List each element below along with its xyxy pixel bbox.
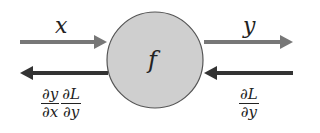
fraction-numerator: ∂L	[239, 86, 259, 104]
backward-output-arrow	[20, 66, 108, 80]
fraction-dL-dy: ∂L ∂y	[61, 86, 81, 121]
node-label-f: f	[148, 46, 157, 74]
backward-input-arrow	[204, 66, 293, 80]
fraction-denominator: ∂y	[241, 104, 257, 121]
output-gradient-label: ∂y ∂x ∂L ∂y	[40, 86, 82, 121]
fraction-numerator: ∂L	[61, 86, 81, 104]
input-label-x: x	[55, 13, 67, 38]
output-label-y: y	[243, 13, 255, 38]
fraction-denominator: ∂x	[42, 104, 58, 121]
fraction-dy-dx: ∂y ∂x	[41, 86, 59, 121]
fraction-numerator: ∂y	[41, 86, 59, 104]
fraction-dL-dy: ∂L ∂y	[239, 86, 259, 121]
input-gradient-label: ∂L ∂y	[238, 86, 260, 121]
fraction-denominator: ∂y	[63, 104, 79, 121]
